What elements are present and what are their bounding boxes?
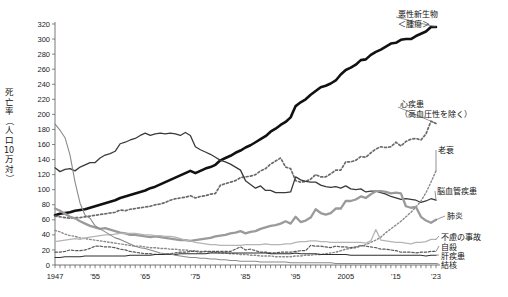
y-tick-label: 160 — [37, 140, 50, 149]
y-tick-label: 40 — [42, 230, 50, 239]
y-tick-label: 60 — [42, 215, 50, 224]
x-tick-label: '15 — [391, 272, 401, 281]
x-tick-label: '85 — [241, 272, 251, 281]
series-label-accidents: 不慮の事故 — [441, 233, 481, 243]
series-label-tuberculosis: 結核 — [441, 261, 457, 271]
y-tick-label: 240 — [37, 80, 50, 89]
series-label-heart-disease: 心疾患（高血圧性を除く） — [400, 100, 472, 119]
x-tick-label: '75 — [190, 272, 200, 281]
series-line — [55, 171, 436, 257]
series-label-cerebrovascular: 脳血管疾患 — [437, 187, 477, 197]
y-tick-label: 180 — [37, 125, 50, 134]
x-tick-label: '23 — [431, 272, 441, 281]
y-tick-label: 200 — [37, 110, 50, 119]
y-tick-label: 280 — [37, 50, 50, 59]
y-tick-label: 0 — [46, 261, 50, 270]
series-line — [55, 191, 436, 241]
y-tick-label: 120 — [37, 170, 50, 179]
y-tick-label: 100 — [37, 185, 50, 194]
y-tick-label: 260 — [37, 65, 50, 74]
y-tick-label: 140 — [37, 155, 50, 164]
series-line — [55, 121, 436, 218]
chart-plot-area: 0204060801001201401601802002202402602803… — [0, 0, 508, 297]
x-tick-label: '95 — [291, 272, 301, 281]
y-tick-label: 220 — [37, 95, 50, 104]
y-tick-label: 20 — [42, 246, 50, 255]
y-tick-label: 80 — [42, 200, 50, 209]
y-tick-label: 320 — [37, 20, 50, 29]
x-tick-label: 1947 — [47, 272, 64, 281]
x-tick-label: 2005 — [337, 272, 354, 281]
x-tick-label: '65 — [140, 272, 150, 281]
series-line — [55, 27, 436, 215]
series-line — [55, 253, 436, 258]
series-label-pneumonia: 肺炎 — [447, 212, 463, 222]
series-label-senility: 老衰 — [438, 146, 454, 156]
y-tick-label: 300 — [37, 35, 50, 44]
x-tick-label: '55 — [90, 272, 100, 281]
series-label-malignant-neoplasm: 悪性新生物＜腫瘍＞ — [398, 10, 438, 29]
death-rate-line-chart: 死亡率（人口10万対） 0204060801001201401601802002… — [0, 0, 508, 297]
